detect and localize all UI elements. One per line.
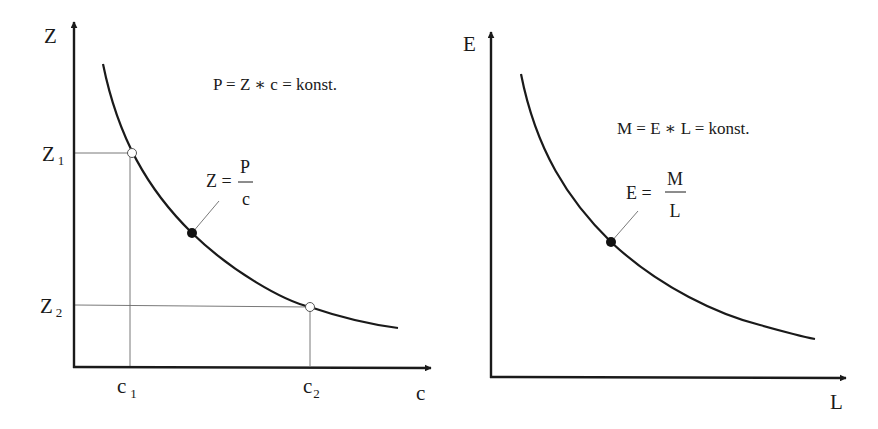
- constant-product-formula: P = Z ∗ c = konst.: [213, 75, 337, 94]
- function-leader-line: [192, 201, 219, 233]
- constant-product-formula: M = E ∗ L = konst.: [617, 119, 750, 138]
- function-leader-line: [611, 211, 638, 242]
- function-numerator: P: [240, 157, 250, 177]
- e-axis-label: E: [463, 32, 476, 56]
- left-chart: Z c Z1 Z2 c1 c2 P = Z ∗ c = konst. Z = P…: [40, 22, 431, 405]
- c1-label: c1: [117, 374, 137, 401]
- point-z1-open-circle: [128, 149, 137, 158]
- c-axis-label: c: [416, 381, 425, 405]
- function-denominator: L: [670, 201, 681, 221]
- c2-label: c2: [303, 374, 320, 401]
- diagram-canvas: Z c Z1 Z2 c1 c2 P = Z ∗ c = konst. Z = P…: [0, 0, 878, 429]
- function-lhs: E =: [626, 183, 652, 203]
- l-axis-label: L: [830, 390, 843, 414]
- function-denominator: c: [242, 189, 250, 209]
- c-axis: [73, 367, 431, 368]
- point-z2-open-circle: [306, 303, 315, 312]
- z-axis-label: Z: [44, 24, 57, 48]
- right-chart: E L M = E ∗ L = konst. E = M L: [463, 32, 846, 414]
- curve-point-filled: [606, 237, 616, 247]
- hyperbola-curve: [521, 74, 815, 339]
- z2-label: Z2: [40, 294, 62, 320]
- hyperbola-curve: [103, 64, 398, 328]
- z2-guide-line: [75, 305, 310, 307]
- z1-label: Z1: [42, 142, 64, 168]
- l-axis: [490, 377, 846, 378]
- curve-point-filled: [187, 228, 197, 238]
- function-numerator: M: [667, 169, 683, 189]
- function-lhs: Z =: [206, 171, 232, 191]
